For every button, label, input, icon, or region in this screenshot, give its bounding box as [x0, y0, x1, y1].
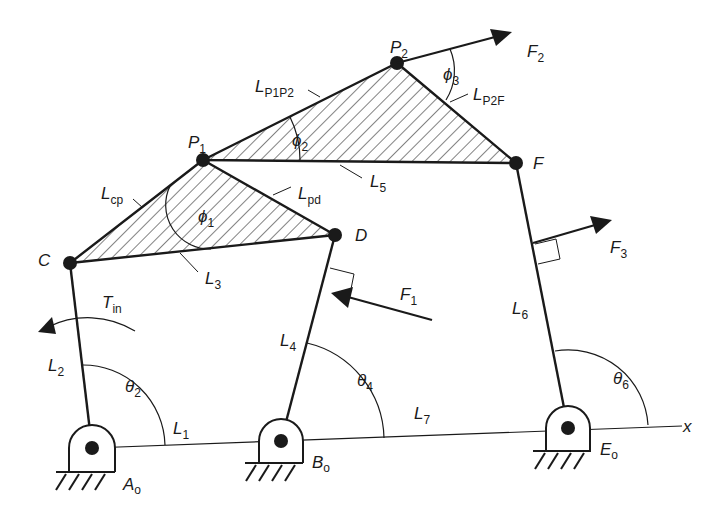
label-Lcp: Lcp — [101, 184, 123, 207]
label-C: C — [38, 251, 51, 270]
label-L4: L4 — [280, 331, 296, 354]
ground-pivot-Bo — [245, 419, 303, 481]
torque-arrowhead — [38, 317, 56, 334]
label-Bo: Bo — [312, 453, 330, 475]
label-phi3: ϕ3 — [443, 65, 459, 88]
label-L5: L5 — [370, 172, 386, 195]
label-Ao: Ao — [122, 475, 141, 497]
label-L7: L7 — [414, 404, 430, 427]
label-Lpd: Lpd — [298, 184, 321, 207]
label-L2: L2 — [48, 356, 64, 379]
link-L2 — [70, 263, 92, 448]
ground-pivot-Ao — [56, 425, 115, 490]
label-Eo: Eo — [600, 440, 618, 462]
label-L1: L1 — [173, 419, 189, 442]
joint-F — [509, 156, 523, 170]
label-F3: F3 — [610, 238, 627, 261]
label-LP2F: LP2F — [473, 85, 504, 108]
linkage-diagram: P2 P1 C D F F2 F3 F1 Tin LP1P2 LP2F Lcp … — [0, 0, 703, 516]
label-L6: L6 — [512, 299, 528, 322]
label-L3: L3 — [205, 269, 221, 292]
joint-C — [63, 256, 77, 270]
label-LP1P2: LP1P2 — [255, 77, 294, 100]
label-F2: F2 — [527, 42, 544, 65]
torque-arc — [48, 318, 135, 331]
label-Tin: Tin — [102, 293, 122, 316]
label-x-axis: x — [682, 417, 692, 436]
label-D: D — [355, 226, 367, 245]
label-F1: F1 — [400, 285, 417, 308]
ground-pivot-Eo — [533, 406, 591, 469]
label-F: F — [533, 154, 545, 173]
force-F2 — [397, 29, 512, 63]
label-theta6: θ6 — [613, 369, 629, 392]
plate-p1p2f — [203, 63, 516, 163]
link-L6 — [516, 163, 568, 428]
force-F3 — [533, 216, 612, 264]
linkage-svg: P2 P1 C D F F2 F3 F1 Tin LP1P2 LP2F Lcp … — [0, 0, 703, 516]
label-theta4: θ4 — [357, 371, 373, 394]
label-P1: P1 — [188, 133, 206, 156]
joint-D — [328, 228, 342, 242]
label-theta2: θ2 — [125, 377, 141, 400]
